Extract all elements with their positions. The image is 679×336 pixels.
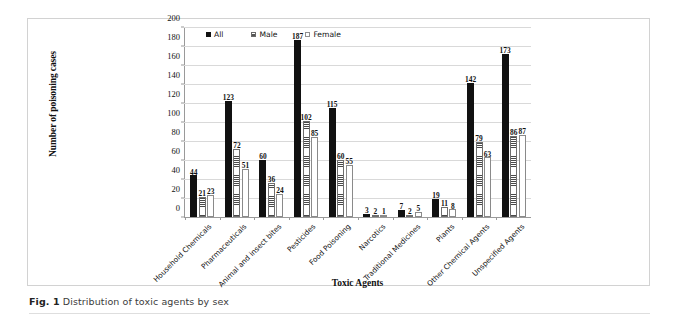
bar-all[interactable]: 44	[190, 175, 197, 217]
chart-legend: AllMaleFemale	[206, 30, 341, 39]
bar-value-label: 23	[207, 188, 214, 195]
bar-value-label: 72	[233, 142, 240, 149]
bar-value-label: 123	[223, 94, 234, 101]
bar-value-label: 86	[510, 129, 517, 136]
bar-all[interactable]: 19	[432, 199, 439, 217]
legend-swatch-icon	[206, 32, 211, 37]
bar-male[interactable]: 36	[268, 183, 275, 217]
bar-all[interactable]: 115	[329, 108, 336, 217]
legend-item-female[interactable]: Female	[305, 30, 340, 39]
figure-caption-text: Distribution of toxic agents by sex	[63, 296, 229, 307]
legend-label: Male	[259, 30, 277, 39]
bar-group: 1738687	[496, 28, 531, 217]
bar-female[interactable]: 23	[207, 195, 214, 217]
bar-male[interactable]: 2	[372, 215, 379, 217]
legend-label: Female	[313, 30, 340, 39]
figure-caption-label: Fig. 1	[29, 296, 60, 307]
figure-frame: Number of poisoning cases 02040608010012…	[27, 18, 650, 286]
bar-value-label: 60	[337, 153, 344, 160]
y-axis-tick-label: 20	[172, 184, 181, 194]
legend-label: All	[214, 30, 223, 39]
legend-item-all[interactable]: All	[206, 30, 223, 39]
x-axis-title: Toxic Agents	[184, 278, 531, 288]
chart-canvas: Number of poisoning cases 02040608010012…	[28, 19, 651, 285]
bar-all[interactable]: 123	[225, 101, 232, 217]
bar-female[interactable]: 24	[276, 194, 283, 217]
bar-value-label: 85	[311, 130, 318, 137]
bar-male[interactable]: 11	[441, 207, 448, 217]
bar-value-label: 63	[484, 151, 491, 158]
bar-value-label: 51	[242, 162, 249, 169]
bar-value-label: 1	[382, 208, 386, 215]
y-axis-tick-mark	[181, 84, 184, 85]
x-axis-label: Narcotics	[357, 222, 387, 252]
bar-all[interactable]: 7	[398, 210, 405, 217]
bar-female[interactable]: 51	[242, 169, 249, 217]
bar-group: 603624	[254, 28, 289, 217]
bar-value-label: 173	[500, 47, 511, 54]
y-axis-tick-mark	[181, 27, 184, 28]
bar-female[interactable]: 55	[346, 165, 353, 217]
bar-value-label: 142	[465, 76, 476, 83]
bar-value-label: 102	[301, 114, 312, 121]
x-axis-label: Household Chemicals	[152, 222, 214, 284]
bar-groups: 4421231237251603624187102851156055321725…	[185, 28, 531, 217]
legend-item-male[interactable]: Male	[251, 30, 277, 39]
caption-divider	[29, 313, 650, 314]
y-axis-tick-mark	[181, 141, 184, 142]
bar-all[interactable]: 187	[294, 40, 301, 217]
y-axis-tick-label: 80	[172, 127, 181, 137]
bar-group: 321	[358, 28, 393, 217]
bar-value-label: 60	[259, 153, 266, 160]
bar-value-label: 2	[373, 208, 377, 215]
y-axis-title: Number of poisoning cases	[48, 24, 58, 184]
bar-value-label: 2	[408, 208, 412, 215]
y-axis-tick-label: 160	[167, 51, 180, 61]
bar-female[interactable]: 1	[380, 215, 387, 217]
plot-area: 020406080100120140160180200 442123123725…	[184, 28, 531, 218]
y-axis-tick-label: 200	[167, 13, 180, 23]
bar-female[interactable]: 85	[311, 137, 318, 217]
legend-swatch-icon	[251, 32, 256, 37]
y-axis-tick-mark	[181, 122, 184, 123]
y-axis-tick-mark	[181, 217, 184, 218]
y-axis-tick-mark	[181, 160, 184, 161]
y-axis-tick-label: 40	[172, 165, 181, 175]
bar-female[interactable]: 8	[449, 209, 456, 217]
bar-male[interactable]: 2	[406, 215, 413, 217]
bar-all[interactable]: 142	[467, 83, 474, 217]
bar-male[interactable]: 72	[233, 149, 240, 217]
y-axis-tick-mark	[181, 65, 184, 66]
bar-all[interactable]: 3	[363, 214, 370, 217]
bar-value-label: 44	[190, 169, 197, 176]
bar-female[interactable]: 63	[484, 157, 491, 217]
bar-male[interactable]: 102	[303, 121, 310, 217]
bar-all[interactable]: 60	[259, 160, 266, 217]
y-axis-tick-mark	[181, 46, 184, 47]
bar-value-label: 7	[400, 203, 404, 210]
bar-female[interactable]: 5	[415, 212, 422, 217]
y-axis-tick-label: 0	[176, 203, 180, 213]
bar-all[interactable]: 173	[502, 54, 509, 217]
bar-male[interactable]: 60	[337, 160, 344, 217]
bar-value-label: 5	[417, 205, 421, 212]
y-axis-tick-mark	[181, 179, 184, 180]
x-axis-label: Pesticides	[286, 222, 318, 254]
figure-caption: Fig. 1 Distribution of toxic agents by s…	[29, 296, 649, 307]
y-axis-tick-mark	[181, 198, 184, 199]
bar-value-label: 19	[432, 192, 439, 199]
bar-value-label: 87	[518, 128, 525, 135]
x-axis-label: Plants	[435, 222, 457, 244]
bar-value-label: 3	[365, 207, 369, 214]
bar-female[interactable]: 87	[519, 135, 526, 217]
y-axis-tick-label: 60	[172, 146, 181, 156]
bar-value-label: 79	[475, 135, 482, 142]
bar-value-label: 36	[268, 176, 275, 183]
bar-value-label: 8	[451, 203, 455, 210]
bar-male[interactable]: 21	[199, 197, 206, 217]
bar-group: 1156055	[323, 28, 358, 217]
bar-male[interactable]: 86	[510, 136, 517, 217]
bar-value-label: 115	[327, 101, 338, 108]
bar-male[interactable]: 79	[476, 142, 483, 217]
y-axis-tick-label: 100	[167, 108, 180, 118]
